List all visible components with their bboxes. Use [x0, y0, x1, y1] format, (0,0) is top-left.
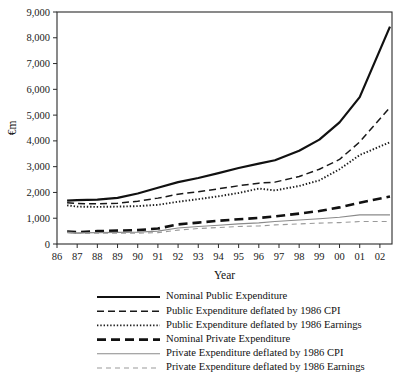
y-tick-label: 9,000: [26, 7, 50, 18]
series-line-0: [67, 27, 390, 201]
x-tick-label: 96: [254, 251, 265, 262]
y-tick-label: 3,000: [26, 161, 50, 172]
y-tick-label: 4,000: [26, 135, 50, 146]
legend-label-2: Public Expenditure deflated by 1986 Earn…: [166, 319, 362, 330]
y-tick-label: 6,000: [26, 84, 50, 95]
legend-label-1: Public Expenditure deflated by 1986 CPI: [166, 305, 341, 316]
y-tick-label: 5,000: [26, 110, 50, 121]
x-tick-label: 01: [354, 251, 365, 262]
series-line-1: [67, 107, 390, 203]
x-tick-label: 98: [294, 251, 305, 262]
y-axis-title: €m: [6, 121, 18, 136]
plot-frame: [57, 12, 392, 244]
series-line-3: [67, 197, 390, 233]
y-tick-label: 2,000: [26, 187, 50, 198]
x-tick-label: 93: [193, 251, 204, 262]
x-tick-label: 97: [274, 251, 285, 262]
x-tick-label: 91: [153, 251, 164, 262]
x-tick-label: 00: [334, 251, 345, 262]
y-tick-label: 1,000: [26, 213, 50, 224]
legend-label-5: Private Expenditure deflated by 1986 Ear…: [166, 361, 365, 372]
x-tick-label: 90: [132, 251, 143, 262]
x-tick-label: 02: [375, 251, 386, 262]
x-tick-label: 89: [112, 251, 123, 262]
chart-figure: 01,0002,0003,0004,0005,0006,0007,0008,00…: [0, 0, 404, 380]
x-tick-label: 92: [173, 251, 184, 262]
legend-label-3: Nominal Private Expenditure: [166, 333, 290, 344]
x-tick-label: 95: [233, 251, 244, 262]
legend-label-0: Nominal Public Expenditure: [166, 290, 288, 301]
x-tick-label: 88: [92, 251, 103, 262]
x-tick-label: 87: [72, 251, 83, 262]
y-tick-label: 0: [45, 239, 50, 250]
y-tick-label: 8,000: [26, 32, 50, 43]
x-tick-label: 99: [314, 251, 325, 262]
x-tick-label: 94: [213, 251, 224, 262]
y-tick-label: 7,000: [26, 58, 50, 69]
x-axis-title: Year: [214, 269, 235, 281]
expenditure-line-chart: 01,0002,0003,0004,0005,0006,0007,0008,00…: [0, 0, 404, 380]
legend-label-4: Private Expenditure deflated by 1986 CPI: [166, 347, 344, 358]
x-tick-label: 86: [52, 251, 63, 262]
